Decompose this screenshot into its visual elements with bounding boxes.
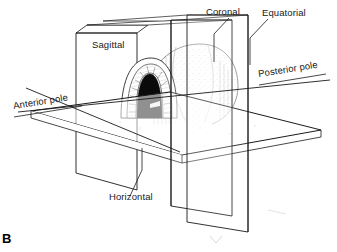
eye-planes-diagram — [0, 0, 337, 252]
label-horizontal: Horizontal — [109, 192, 153, 202]
label-sagittal: Sagittal — [92, 40, 125, 50]
label-equatorial: Equatorial — [262, 8, 306, 18]
sagittal-plane-top-edge — [76, 25, 148, 33]
equatorial-plane-face — [187, 15, 248, 232]
equatorial-leader-line — [250, 19, 268, 65]
anatomical-planes-figure: Sagittal Coronal Equatorial Horizontal A… — [0, 0, 337, 252]
label-coronal: Coronal — [206, 7, 240, 17]
equatorial-plane — [187, 15, 248, 232]
panel-letter-b: B — [2, 232, 11, 245]
